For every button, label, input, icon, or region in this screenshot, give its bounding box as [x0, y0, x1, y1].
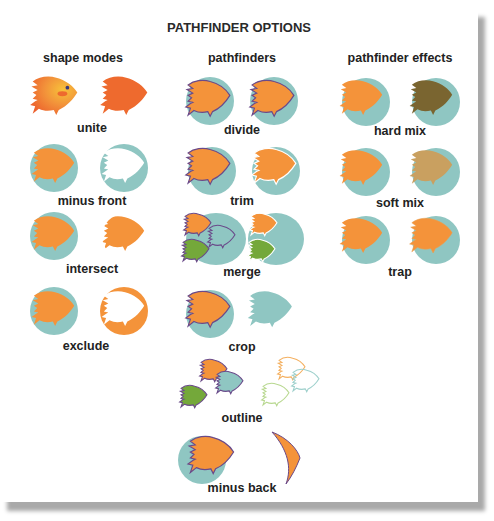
fish-minus-back-icon — [176, 428, 306, 484]
column-heading-shape-modes: shape modes — [3, 51, 163, 65]
fish-minus-front-icon — [24, 142, 154, 194]
label-soft-mix: soft mix — [320, 196, 480, 210]
fish-hard-mix-icon — [332, 74, 466, 128]
fish-exclude-icon — [24, 285, 154, 337]
label-exclude: exclude — [6, 339, 166, 353]
label-intersect: intersect — [12, 262, 172, 276]
label-minus-front: minus front — [12, 194, 172, 208]
label-unite: unite — [12, 121, 172, 135]
label-trap: trap — [320, 265, 480, 279]
fish-trim-icon — [176, 142, 306, 196]
fish-crop-icon — [176, 285, 306, 339]
column-heading-pathfinders: pathfinders — [162, 51, 322, 65]
label-crop: crop — [162, 340, 322, 354]
label-divide: divide — [162, 123, 322, 137]
fish-merge-icon — [176, 212, 306, 266]
fish-unite-icon — [24, 72, 154, 120]
label-minus-back: minus back — [162, 481, 322, 495]
column-heading-pathfinder-effects: pathfinder effects — [320, 51, 480, 65]
fish-soft-mix-icon — [332, 144, 466, 198]
label-trim: trim — [162, 194, 322, 208]
label-merge: merge — [162, 265, 322, 279]
fish-trap-icon — [332, 212, 466, 266]
fish-divide-icon — [176, 72, 306, 126]
fish-outline-icon — [176, 356, 326, 412]
fish-intersect-icon — [24, 210, 154, 262]
page-title: PATHFINDER OPTIONS — [0, 20, 478, 35]
label-outline: outline — [162, 411, 322, 425]
label-hard-mix: hard mix — [320, 124, 480, 138]
